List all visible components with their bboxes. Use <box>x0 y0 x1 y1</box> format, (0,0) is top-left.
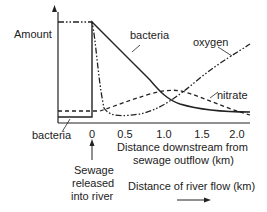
bacteria-bottom-label: bacteria <box>32 129 71 141</box>
sewage-arrow-icon <box>90 139 95 146</box>
y-axis-arrow-icon <box>52 5 57 12</box>
sewage-label-line1: Sewage <box>74 164 114 176</box>
oxygen-leader <box>218 47 232 56</box>
x-tick-1-5: 1.5 <box>194 128 209 140</box>
x-tick-0: 0 <box>89 128 95 140</box>
sewage-label-line2: released <box>72 177 114 189</box>
flow-arrow-icon <box>204 198 211 203</box>
bacteria-top-leader <box>132 45 140 52</box>
x-tick-1-0: 1.0 <box>156 128 171 140</box>
sewage-label-line3: into river <box>71 190 113 202</box>
x-tick-0-5: 0.5 <box>117 128 132 140</box>
x-tick-2-0: 2.0 <box>229 128 244 140</box>
flow-label: Distance of river flow (km) <box>128 180 255 192</box>
nitrate-label: nitrate <box>217 89 248 101</box>
y-axis-label: Amount <box>14 28 52 40</box>
bacteria-top-label: bacteria <box>130 29 169 41</box>
oxygen-label: oxygen <box>193 36 228 48</box>
x-axis-label-line2: sewage outflow (km) <box>133 154 234 166</box>
x-axis-label-line1: Distance downstream from <box>117 141 248 153</box>
